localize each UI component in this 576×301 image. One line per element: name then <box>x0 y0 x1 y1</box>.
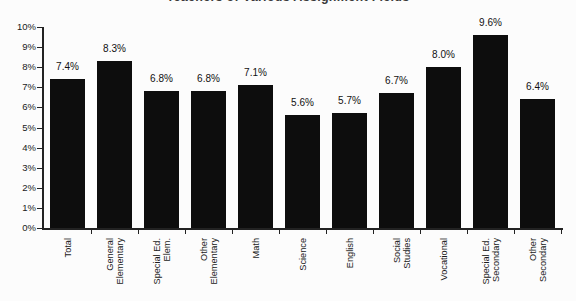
y-axis-tick <box>37 27 42 28</box>
bar-10 <box>520 99 555 228</box>
bar-chart-plot: 0%1%2%3%4%5%6%7%8%9%10%7.4%Total8.3%Gene… <box>0 0 576 301</box>
x-axis-tick <box>91 230 92 234</box>
x-axis-line <box>42 228 563 230</box>
y-axis-tick-label: 3% <box>0 163 36 173</box>
bar-5 <box>285 115 320 228</box>
y-axis-tick-label: 10% <box>0 22 36 32</box>
bar-9 <box>473 35 508 228</box>
y-axis-tick-label: 1% <box>0 203 36 213</box>
x-category-label: Other Elementary <box>199 238 219 294</box>
bar-2 <box>144 91 179 228</box>
bar-value-label: 6.8% <box>142 73 182 84</box>
x-category-label: General Elementary <box>105 238 125 294</box>
x-axis-tick <box>467 230 468 234</box>
y-axis-tick-label: 8% <box>0 62 36 72</box>
y-axis-tick <box>37 208 42 209</box>
x-category-label: Math <box>251 238 261 294</box>
x-axis-tick <box>514 230 515 234</box>
y-axis-tick <box>37 148 42 149</box>
y-axis-tick-label: 9% <box>0 42 36 52</box>
x-axis-tick <box>185 230 186 234</box>
x-category-label: Social Studies <box>392 238 402 294</box>
y-axis-tick-label: 0% <box>0 223 36 233</box>
bar-8 <box>426 67 461 228</box>
y-axis-tick <box>37 168 42 169</box>
x-category-label: Total <box>63 238 73 294</box>
y-axis-line <box>42 27 44 230</box>
y-axis-tick-label: 6% <box>0 102 36 112</box>
bar-value-label: 8.3% <box>95 43 135 54</box>
x-category-label: Special Ed. Elem. <box>152 238 172 294</box>
bar-6 <box>332 113 367 228</box>
bar-0 <box>50 79 85 228</box>
x-axis-tick <box>232 230 233 234</box>
bar-value-label: 9.6% <box>471 17 511 28</box>
bar-7 <box>379 93 414 228</box>
y-axis-tick-label: 5% <box>0 123 36 133</box>
y-axis-tick <box>37 67 42 68</box>
y-axis-tick-label: 4% <box>0 143 36 153</box>
x-category-label: English <box>345 238 355 294</box>
x-axis-tick <box>326 230 327 234</box>
bar-chart-figure: Teachers of Various Assignment Fields 0%… <box>0 0 576 301</box>
bar-value-label: 6.7% <box>377 75 417 86</box>
bar-value-label: 6.8% <box>189 73 229 84</box>
y-axis-tick-label: 7% <box>0 82 36 92</box>
bar-value-label: 5.7% <box>330 95 370 106</box>
x-axis-tick <box>420 230 421 234</box>
bar-value-label: 6.4% <box>518 81 558 92</box>
bar-1 <box>97 61 132 228</box>
x-axis-tick <box>279 230 280 234</box>
bar-value-label: 7.1% <box>236 67 276 78</box>
x-axis-tick <box>138 230 139 234</box>
y-axis-tick-label: 2% <box>0 183 36 193</box>
y-axis-tick <box>37 128 42 129</box>
y-axis-tick <box>37 228 42 229</box>
y-axis-tick <box>37 188 42 189</box>
bar-3 <box>191 91 226 228</box>
bar-value-label: 7.4% <box>48 61 88 72</box>
bar-value-label: 5.6% <box>283 97 323 108</box>
bar-4 <box>238 85 273 228</box>
x-axis-tick <box>373 230 374 234</box>
x-category-label: Science <box>298 238 308 294</box>
bar-value-label: 8.0% <box>424 49 464 60</box>
x-axis-tick <box>561 230 562 234</box>
x-category-label: Special Ed. Secondary <box>481 238 501 294</box>
y-axis-tick <box>37 87 42 88</box>
y-axis-tick <box>37 47 42 48</box>
x-category-label: Vocational <box>439 238 449 294</box>
y-axis-tick <box>37 107 42 108</box>
x-category-label: Other Secondary <box>528 238 548 294</box>
